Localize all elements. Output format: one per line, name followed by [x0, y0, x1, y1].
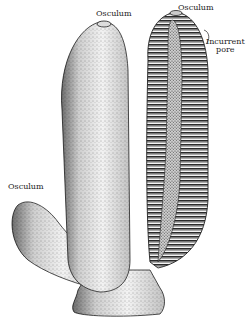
label-osculum-section: Osculum	[178, 4, 214, 12]
sponge-main-body	[62, 21, 130, 292]
label-osculum-main: Osculum	[96, 10, 132, 18]
label-osculum-bud: Osculum	[8, 183, 44, 191]
sponge-section	[147, 11, 209, 269]
label-incurrent-pore: Incurrent pore	[206, 38, 245, 54]
label-incurrent-line2: pore	[206, 46, 245, 54]
sponge-illustration: Osculum Osculum Incurrent pore Osculum	[0, 0, 250, 325]
osculum-opening	[97, 21, 111, 27]
